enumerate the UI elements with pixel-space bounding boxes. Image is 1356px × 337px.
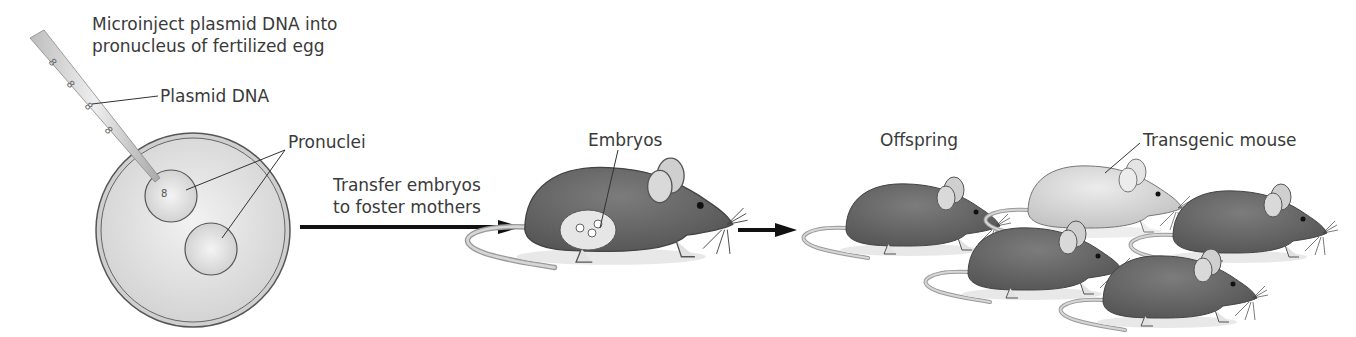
embryos-label: Embryos <box>588 130 662 151</box>
offspring-mice <box>804 143 1338 330</box>
svg-text:8: 8 <box>102 124 115 136</box>
plasmid-dna-label: Plasmid DNA <box>160 86 269 107</box>
transfer-label-line2: to foster mothers <box>333 197 481 218</box>
plasmid-leader-line <box>92 96 158 104</box>
transgenic-mouse-label: Transgenic mouse <box>1143 130 1296 151</box>
offspring-arrow <box>738 223 797 237</box>
transfer-label-line1: Transfer embryos <box>333 175 481 196</box>
fertilized-egg: 8 <box>96 133 290 327</box>
offspring-label: Offspring <box>880 130 958 151</box>
step1-label-line1: Microinject plasmid DNA into <box>92 14 338 35</box>
svg-text:8: 8 <box>161 188 167 199</box>
embryos-window <box>560 210 616 250</box>
pronuclei-label: Pronuclei <box>288 132 366 153</box>
pronucleus-lower <box>185 223 237 275</box>
foster-mother-mouse <box>468 150 748 268</box>
step1-label-line2: pronucleus of fertilized egg <box>92 36 325 57</box>
